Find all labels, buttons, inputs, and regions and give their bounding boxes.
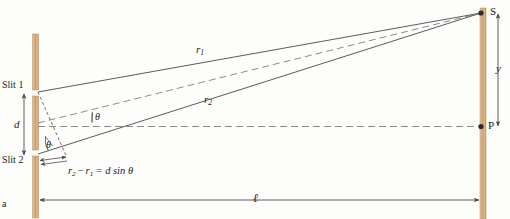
ray-r1-subscript: 1 [200, 48, 204, 57]
center-ray-dashed-line [38, 13, 481, 123]
ray-r1-label: r1 [196, 44, 204, 57]
theta-lower-label: θ [46, 140, 51, 150]
ray-r2-subscript: 2 [208, 98, 212, 107]
slit-barrier-middle [33, 96, 39, 150]
path-difference-equation: r2−r1=d sin θ [68, 166, 133, 178]
equation-r2-subscript: 2 [72, 170, 76, 178]
point-p-dot [478, 124, 483, 129]
equation-rhs: d sin θ [105, 165, 133, 176]
screen-distance-l-label: ℓ [253, 192, 258, 204]
slit-separation-label: d [14, 119, 20, 130]
double-slit-diagram: Slit 1 Slit 2 d r1 r2 θ θ r2−r1=d sin θ … [0, 0, 510, 219]
diagram-canvas [0, 0, 510, 219]
panel-letter-label: a [2, 199, 6, 209]
theta-upper-label: θ [95, 112, 100, 122]
slit-2-label: Slit 2 [2, 155, 23, 165]
ray-r2-line [38, 13, 481, 154]
viewing-screen [480, 8, 486, 219]
equation-r1-subscript: 1 [90, 170, 94, 178]
point-s-dot [478, 10, 483, 15]
point-p-label: P [488, 120, 494, 131]
slit-1-label: Slit 1 [2, 80, 23, 90]
slit-barrier-upper [33, 34, 39, 90]
equation-minus: − [78, 165, 84, 176]
screen-distance-y-label: y [496, 63, 501, 74]
slit-barrier-lower [33, 156, 39, 218]
path-difference-arrow-second [41, 161, 67, 165]
point-s-label: S [490, 6, 496, 17]
equation-equals: = [96, 165, 102, 176]
path-difference-arrow [40, 157, 66, 161]
ray-r2-label: r2 [204, 94, 212, 107]
ray-r1-line [38, 13, 481, 92]
